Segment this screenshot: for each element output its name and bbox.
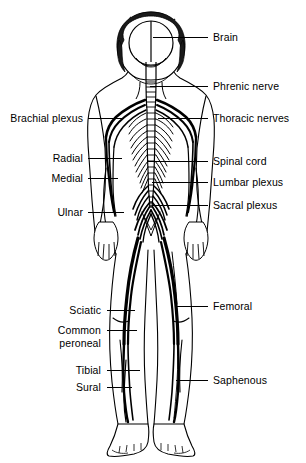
leader-saphenous bbox=[176, 380, 208, 381]
leader-ulnar bbox=[88, 212, 124, 213]
label-femoral: Femoral bbox=[213, 300, 252, 312]
label-medial: Medial bbox=[51, 172, 83, 184]
sciatic-nerve bbox=[124, 238, 178, 344]
label-brain: Brain bbox=[213, 31, 238, 43]
leader-lumbar-plexus bbox=[152, 182, 208, 183]
label-sacral-plexus: Sacral plexus bbox=[213, 199, 277, 211]
leader-tibial bbox=[107, 370, 140, 371]
leader-common-peroneal bbox=[107, 330, 137, 331]
label-spinal-cord: Spinal cord bbox=[213, 155, 267, 167]
leader-femoral bbox=[176, 306, 208, 307]
label-radial: Radial bbox=[53, 152, 83, 164]
anatomy-illustration bbox=[0, 0, 306, 463]
label-ulnar: Ulnar bbox=[57, 206, 83, 218]
label-phrenic-nerve: Phrenic nerve bbox=[213, 80, 279, 92]
sacral-plexus bbox=[135, 202, 167, 242]
leader-phrenic-nerve bbox=[150, 86, 208, 87]
leader-spinal-cord bbox=[148, 161, 208, 162]
label-common-peroneal-line2: peroneal bbox=[59, 336, 101, 348]
leader-sciatic bbox=[107, 310, 135, 311]
label-tibial: Tibial bbox=[76, 364, 101, 376]
leader-brain bbox=[153, 37, 208, 38]
feet bbox=[107, 424, 195, 456]
label-common-peroneal: Common peroneal bbox=[11, 324, 101, 349]
leader-thoracic-nerves bbox=[158, 118, 208, 119]
leg-nerves bbox=[123, 252, 179, 422]
leader-brachial-plexus bbox=[88, 118, 124, 119]
label-sciatic: Sciatic bbox=[69, 304, 101, 316]
label-common-peroneal-line1: Common bbox=[58, 324, 101, 336]
label-saphenous: Saphenous bbox=[213, 374, 267, 386]
nervous-system-figure: Brachial plexus Radial Medial Ulnar Scia… bbox=[0, 0, 306, 463]
label-lumbar-plexus: Lumbar plexus bbox=[213, 176, 283, 188]
label-brachial-plexus: Brachial plexus bbox=[10, 112, 83, 124]
leader-medial bbox=[88, 178, 118, 179]
leader-sural bbox=[107, 387, 132, 388]
leg-outline bbox=[110, 250, 193, 424]
label-thoracic-nerves: Thoracic nerves bbox=[213, 112, 289, 124]
label-sural: Sural bbox=[76, 381, 101, 393]
leader-radial bbox=[88, 158, 122, 159]
hands bbox=[94, 222, 208, 260]
leader-sacral-plexus bbox=[152, 205, 208, 206]
